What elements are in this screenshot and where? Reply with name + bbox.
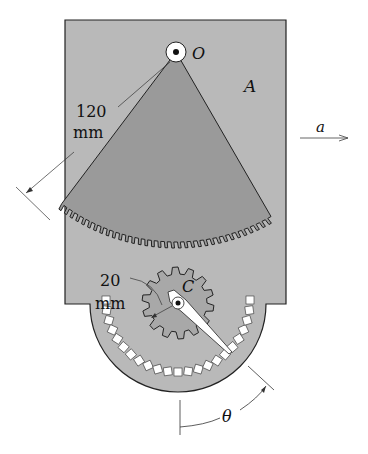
label-C: C xyxy=(182,277,194,296)
label-a: a xyxy=(316,118,325,136)
dial-tick xyxy=(163,367,172,376)
label-theta: θ xyxy=(222,407,232,426)
label-O: O xyxy=(192,44,205,63)
gear-axle-icon xyxy=(176,301,181,306)
accelerometer-diagram: O A a 120 mm 20 mm C θ xyxy=(0,0,368,454)
pivot-pin-icon xyxy=(173,49,179,55)
angle-reference-line xyxy=(248,366,274,390)
dial-tick xyxy=(174,368,182,376)
dial-tick xyxy=(246,296,254,304)
extension-line xyxy=(16,187,50,220)
dial-tick xyxy=(245,306,254,315)
label-20: 20 xyxy=(100,271,120,290)
label-20-unit: mm xyxy=(95,294,125,313)
label-A: A xyxy=(242,76,256,96)
dial-tick xyxy=(184,367,193,376)
label-120: 120 xyxy=(76,102,107,121)
label-120-unit: mm xyxy=(73,123,103,142)
